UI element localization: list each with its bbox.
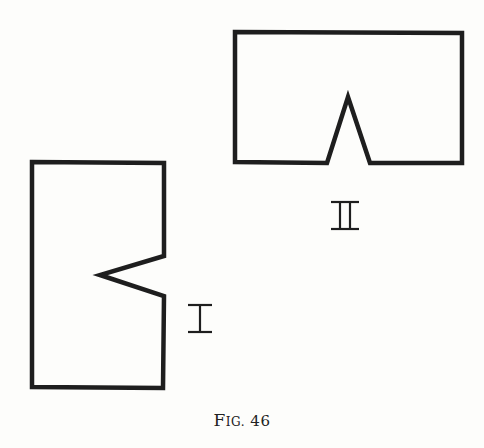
notched-rectangle-ii xyxy=(235,32,462,163)
caption-prefix-big: F xyxy=(214,410,226,430)
label-ii xyxy=(331,202,359,229)
figure-caption: FIG. 46 xyxy=(0,410,484,430)
caption-prefix-small: IG. xyxy=(226,415,245,429)
notched-rectangle-i xyxy=(32,162,164,388)
caption-number: 46 xyxy=(250,412,270,430)
figure-diagram xyxy=(0,0,484,448)
label-i xyxy=(188,305,212,332)
